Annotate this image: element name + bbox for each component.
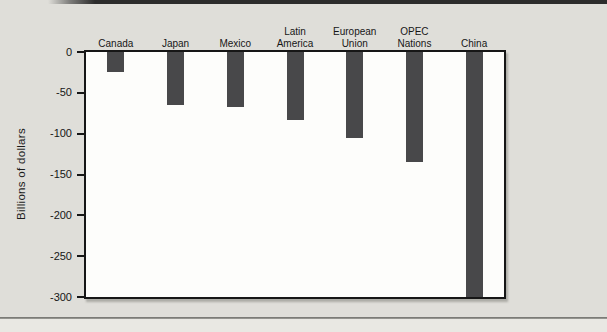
bar-opec-nations <box>406 52 423 162</box>
x-label-china: China <box>437 38 511 50</box>
y-tick-mark--150 <box>77 174 84 176</box>
y-tick-mark-0 <box>77 51 84 53</box>
y-tick-mark--300 <box>77 296 84 298</box>
bottom-margin-band <box>0 319 607 332</box>
y-tick-mark--250 <box>77 255 84 257</box>
y-tick-label--50: -50 <box>28 86 72 98</box>
y-tick-label--250: -250 <box>28 250 72 262</box>
y-tick-label--300: -300 <box>28 291 72 303</box>
bar-canada <box>107 52 124 72</box>
y-tick-label-0: 0 <box>28 46 72 58</box>
bar-china <box>466 52 483 297</box>
y-tick-label--150: -150 <box>28 168 72 180</box>
y-tick-label--100: -100 <box>28 127 72 139</box>
figure: Billions of dollars 0-50-100-150-200-250… <box>0 0 607 332</box>
y-tick-mark--200 <box>77 214 84 216</box>
x-label-line: OPEC <box>377 26 451 38</box>
x-label-line: China <box>437 38 511 50</box>
bar-japan <box>167 52 184 105</box>
bar-latin-america <box>287 52 304 120</box>
y-axis-title: Billions of dollars <box>15 104 29 244</box>
y-tick-mark--50 <box>77 92 84 94</box>
bar-mexico <box>227 52 244 107</box>
y-tick-label--200: -200 <box>28 209 72 221</box>
y-tick-mark--100 <box>77 133 84 135</box>
bar-european-union <box>346 52 363 138</box>
top-rule <box>0 0 607 4</box>
